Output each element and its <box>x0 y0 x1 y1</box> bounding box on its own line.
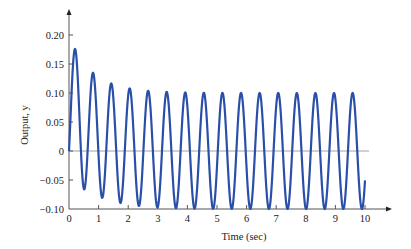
x-tick-label: 7 <box>274 213 279 224</box>
x-axis-label: Time (sec) <box>222 231 267 243</box>
x-tick-label: 5 <box>214 213 219 224</box>
x-tick-label: 9 <box>333 213 338 224</box>
y-axis-arrow-icon <box>67 9 72 15</box>
x-tick-label: 2 <box>126 213 131 224</box>
y-tick-label: 0.10 <box>46 88 64 99</box>
y-axis-label: Output, y <box>19 104 30 144</box>
series-line <box>69 49 365 209</box>
x-tick-label: 0 <box>66 213 71 224</box>
y-tick-label: 0.05 <box>46 117 64 128</box>
line-chart: 012345678910−0.10−0.0500.050.100.150.20 … <box>0 0 411 249</box>
y-tick-label: 0 <box>59 146 64 157</box>
x-tick-label: 8 <box>303 213 308 224</box>
y-tick-label: 0.15 <box>46 59 64 70</box>
x-tick-label: 10 <box>360 213 371 224</box>
series-output-y <box>69 49 365 209</box>
y-tick-label: −0.05 <box>40 175 64 186</box>
x-tick-label: 3 <box>155 213 160 224</box>
y-tick-label: −0.10 <box>40 204 64 215</box>
x-tick-label: 4 <box>185 213 191 224</box>
x-tick-label: 1 <box>96 213 101 224</box>
x-axis-arrow-icon <box>386 207 392 212</box>
x-tick-label: 6 <box>244 213 249 224</box>
y-tick-label: 0.20 <box>46 30 64 41</box>
